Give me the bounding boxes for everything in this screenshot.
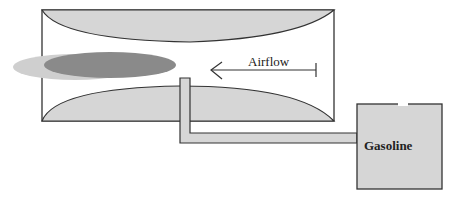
carburetor-diagram bbox=[0, 0, 464, 203]
fuel-spray bbox=[44, 52, 176, 78]
tank-vent bbox=[398, 102, 408, 106]
airflow-label: Airflow bbox=[248, 54, 289, 70]
gasoline-label: Gasoline bbox=[364, 138, 412, 154]
